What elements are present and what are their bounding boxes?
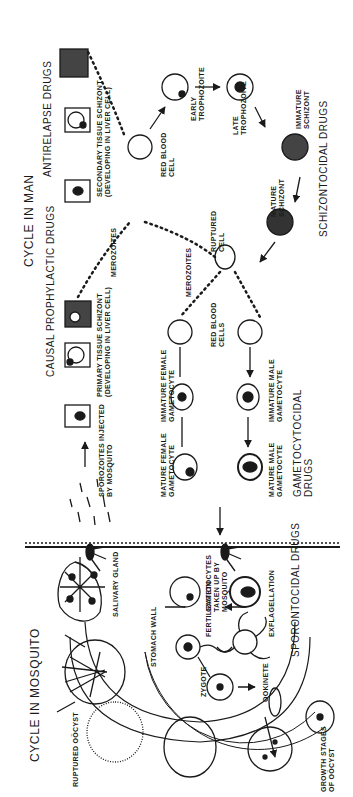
causal-prophylactic-drugs: CAUSAL PROPHYLACTIC DRUGS — [45, 205, 56, 377]
female-gametocyte-in-mosquito — [170, 577, 200, 607]
label-primary-schizont: PRIMARY TISSUE SCHIZONT (DEVELOPING IN L… — [96, 287, 112, 397]
label-ruptured-oocyst: RUPTURED OÖCYST — [72, 712, 80, 787]
ruptured-oocyst-icon — [57, 635, 125, 712]
label-sporozoites: SPOROZOITES INJECTED BY MOSQUITO — [98, 404, 114, 497]
schizontocidal-drugs: SCHIZONTOCIDAL DRUGS — [318, 100, 329, 237]
mosquito-icon — [86, 544, 106, 571]
label-ruptured-cell: RUPTURED CELL — [210, 211, 226, 252]
gametocytocidal-drugs: GAMETOCYTOCIDAL DRUGS — [292, 389, 314, 497]
red-blood-cell — [128, 135, 152, 159]
stomach-wall-icon — [70, 622, 325, 749]
antirelapse-drugs: ANTIRELAPSE DRUGS — [42, 61, 53, 177]
label-secondary-schizont: SECONDARY TISSUE SCHIZONT (DEVELOPING IN… — [96, 80, 112, 197]
red-blood-cell-female — [168, 320, 192, 344]
label-exflagellation: EXFLAGELLATION — [268, 570, 276, 637]
secondary-schizont-icon — [65, 108, 90, 132]
mature-secondary-schizont-icon — [60, 49, 88, 77]
label-late-trophozoite: LATE TROPHOZOITE — [232, 81, 248, 135]
label-mature-male-gametocyte: MATURE MALE GAMETOCYTE — [268, 443, 284, 498]
label-immature-male-gametocyte: IMMATURE MALE GAMETOCYTE — [268, 359, 284, 422]
sporontocidal-drugs: SPORONTOCIDAL DRUGS — [290, 522, 301, 657]
label-early-trophozoite: EARLY TROPHOZOITE — [190, 67, 206, 121]
salivary-gland-icon — [58, 557, 105, 621]
label-salivary-gland: SALIVARY GLAND — [112, 551, 120, 617]
mature-primary-schizont-icon — [65, 301, 91, 327]
label-ookinete: OOKINETE — [262, 663, 270, 702]
malaria-life-cycle-diagram: CYCLE IN MOSQUITO CYCLE IN MAN CAUSAL PR… — [0, 0, 353, 797]
label-red-blood-cell: RED BLOOD CELL — [160, 132, 176, 177]
label-immature-schizont: IMMATURE SCHIZONT — [295, 89, 311, 129]
label-growth-stages-oocyst: GROWTH STAGES OF OÖCYST — [320, 726, 336, 792]
ookinete-cell — [269, 688, 281, 716]
label-merozoites-2: MEROZOITES — [185, 248, 193, 297]
mature-female-gametocyte — [173, 454, 197, 480]
red-blood-cell-male — [238, 320, 262, 344]
title-cycle-in-man: CYCLE IN MAN — [22, 174, 36, 267]
exflagellation-cell — [233, 630, 257, 654]
label-red-blood-cells: RED BLOOD CELLS — [210, 302, 226, 347]
label-merozoites-1: MEROZOITES — [110, 228, 118, 277]
label-mature-female-gametocyte: MATURE FEMALE GAMETOCYTE — [160, 433, 176, 497]
immature-schizont — [282, 134, 308, 160]
liver-cell-icon — [65, 405, 90, 427]
label-mature-schizont: MATURE SCHIZONT — [270, 179, 286, 217]
label-stomach-wall: STOMACH WALL — [150, 606, 158, 667]
primary-schizont-icon — [65, 343, 90, 367]
title-cycle-in-mosquito: CYCLE IN MOSQUITO — [28, 628, 42, 762]
label-immature-female-gametocyte: IMMATURE FEMALE GAMETOCYTE — [160, 350, 176, 422]
label-zygote: ZYGOTE — [200, 666, 208, 697]
liver-cell-icon — [65, 180, 90, 202]
label-fertilization: FERTILIZATION — [205, 581, 213, 637]
